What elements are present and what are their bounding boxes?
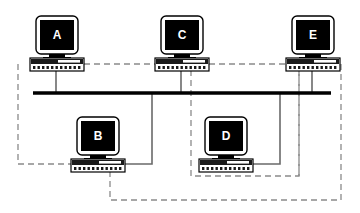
- node-label-d: D: [222, 129, 231, 143]
- node-label-c: C: [178, 28, 187, 42]
- network-diagram: A C: [0, 0, 360, 213]
- base-drive-slot: [314, 60, 336, 63]
- base-drive-slot: [99, 161, 121, 164]
- base-drive-slot: [227, 161, 249, 164]
- computer-node-a[interactable]: A: [30, 16, 84, 71]
- node-label-a: A: [53, 28, 62, 42]
- computer-node-b[interactable]: B: [71, 117, 125, 172]
- computer-node-d[interactable]: D: [199, 117, 253, 172]
- node-label-e: E: [309, 28, 317, 42]
- base-drive-slot: [183, 60, 205, 63]
- network-diagram-canvas: A C: [0, 0, 360, 213]
- base-drive-slot: [58, 60, 80, 63]
- computer-node-c[interactable]: C: [155, 16, 209, 71]
- computer-node-e[interactable]: E: [286, 16, 340, 71]
- node-label-b: B: [94, 129, 103, 143]
